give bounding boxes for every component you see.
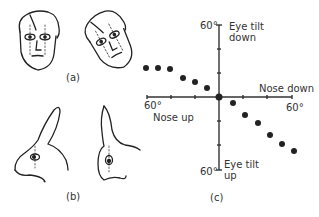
x-right-tick: 60° <box>286 102 304 113</box>
panel-b-caption: (b) <box>66 191 80 202</box>
y-bottom-label: Eye tilt up <box>224 159 264 181</box>
rabbit-upright-drawing <box>15 107 68 181</box>
panel-a-caption: (a) <box>66 72 80 83</box>
data-points <box>143 65 297 154</box>
face-tilted-drawing <box>79 5 142 76</box>
face-upright-drawing <box>19 11 59 70</box>
y-bottom-tick: 60° <box>200 166 218 177</box>
x-right-label: Nose down <box>259 83 314 94</box>
panel-c-caption: (c) <box>210 192 223 203</box>
rabbit-tilted-drawing <box>98 106 140 180</box>
y-top-label: Eye tilt down <box>229 21 269 43</box>
x-left-tick: 60° <box>144 100 162 111</box>
x-left-label: Nose up <box>153 112 194 123</box>
y-top-tick: 60° <box>200 20 218 31</box>
